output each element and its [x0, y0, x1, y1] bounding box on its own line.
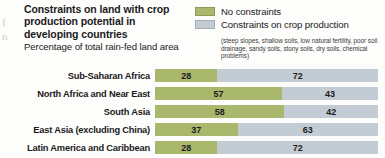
bar-value-no-constraints: 58	[155, 107, 284, 117]
stacked-bar: 28 72	[155, 69, 378, 82]
bar-segment-no-constraints: 28	[155, 141, 217, 154]
bar-segment-constraints: 63	[238, 123, 378, 136]
bar-value-constraints: 43	[282, 89, 378, 99]
bar-segment-no-constraints: 37	[155, 123, 238, 136]
legend-label-constraints: Constraints on crop production	[221, 19, 349, 30]
chart-row: East Asia (excluding China) 37 63	[0, 122, 385, 140]
bar-segment-no-constraints: 57	[155, 87, 282, 100]
bar-chart: Sub-Saharan Africa 28 72 North Africa an…	[0, 68, 385, 158]
page-title: Constraints on land with crop production…	[24, 3, 190, 40]
stacked-bar: 28 72	[155, 141, 378, 154]
row-label-latin-america-and-caribbean: Latin America and Caribbean	[0, 142, 150, 154]
bar-segment-constraints: 72	[217, 69, 378, 82]
row-label-sub-saharan-africa: Sub-Saharan Africa	[0, 70, 150, 82]
legend-swatch-gray-icon	[195, 20, 215, 29]
legend-item-constraints: Constraints on crop production	[195, 19, 385, 30]
chart-figure: f n Constraints on land with crop produc…	[0, 0, 385, 158]
chart-row: South Asia 58 42	[0, 104, 385, 122]
bar-segment-constraints: 72	[217, 141, 378, 154]
bar-value-constraints: 72	[217, 71, 378, 81]
row-label-east-asia-excluding-china: East Asia (excluding China)	[0, 124, 150, 136]
page-subtitle: Percentage of total rain-fed land area	[24, 41, 190, 53]
stacked-bar: 57 43	[155, 87, 378, 100]
legend-swatch-green-icon	[195, 7, 215, 16]
bar-value-no-constraints: 28	[155, 143, 217, 153]
legend-note: (steep slopes, shallow soils, low natura…	[221, 37, 381, 60]
chart-row: North Africa and Near East 57 43	[0, 86, 385, 104]
chart-row: Latin America and Caribbean 28 72	[0, 140, 385, 158]
bar-segment-no-constraints: 58	[155, 105, 284, 118]
bar-segment-constraints: 43	[282, 87, 378, 100]
bar-value-no-constraints: 37	[155, 125, 238, 135]
bar-value-constraints: 63	[238, 125, 378, 135]
bar-value-constraints: 42	[284, 107, 378, 117]
stacked-bar: 58 42	[155, 105, 378, 118]
bar-value-constraints: 72	[217, 143, 378, 153]
bar-segment-no-constraints: 28	[155, 69, 217, 82]
title-block: Constraints on land with crop production…	[24, 3, 190, 53]
bar-value-no-constraints: 57	[155, 89, 282, 99]
figure-header: Constraints on land with crop production…	[0, 0, 385, 66]
bar-value-no-constraints: 28	[155, 71, 217, 81]
legend-item-no-constraints: No constraints	[195, 6, 385, 17]
legend: No constraints Constraints on crop produ…	[195, 6, 385, 32]
bar-segment-constraints: 42	[284, 105, 378, 118]
row-label-south-asia: South Asia	[0, 106, 150, 118]
chart-row: Sub-Saharan Africa 28 72	[0, 68, 385, 86]
stacked-bar: 37 63	[155, 123, 378, 136]
row-label-north-africa-and-near-east: North Africa and Near East	[0, 88, 150, 100]
legend-label-no-constraints: No constraints	[221, 6, 281, 17]
